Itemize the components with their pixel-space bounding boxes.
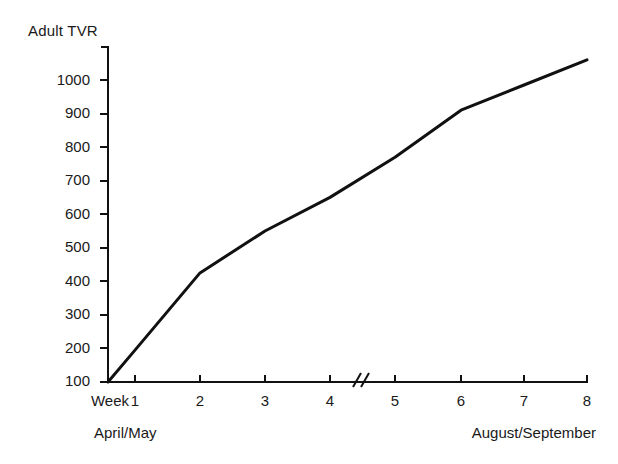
- y-axis-ticks: [100, 80, 108, 382]
- x-axis-ticks: [135, 375, 524, 382]
- chart-figure: Adult TVR 1000 900 800 700 600 500 400 3…: [0, 0, 618, 464]
- x-axis-line: [108, 375, 587, 382]
- axis-break-icon: [353, 373, 369, 387]
- data-line-adult-tvr: [108, 60, 587, 382]
- chart-plot-area: [0, 0, 618, 464]
